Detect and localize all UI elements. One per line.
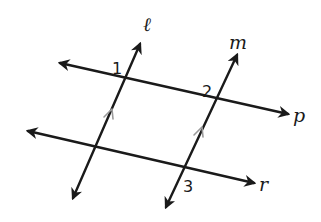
angle-label-1: 1 xyxy=(112,59,122,78)
angle-label-3: 3 xyxy=(183,177,193,196)
label-line-m: m xyxy=(229,31,247,53)
label-line-p: p xyxy=(293,104,305,126)
angle-label-2: 2 xyxy=(202,82,212,101)
line-p xyxy=(60,63,288,114)
line-m xyxy=(166,55,237,207)
line-r xyxy=(28,131,254,183)
label-line-r: r xyxy=(259,173,270,195)
label-line-l: ℓ xyxy=(143,13,151,35)
parallel-lines-diagram: ℓ m p r 1 2 3 xyxy=(0,0,321,222)
